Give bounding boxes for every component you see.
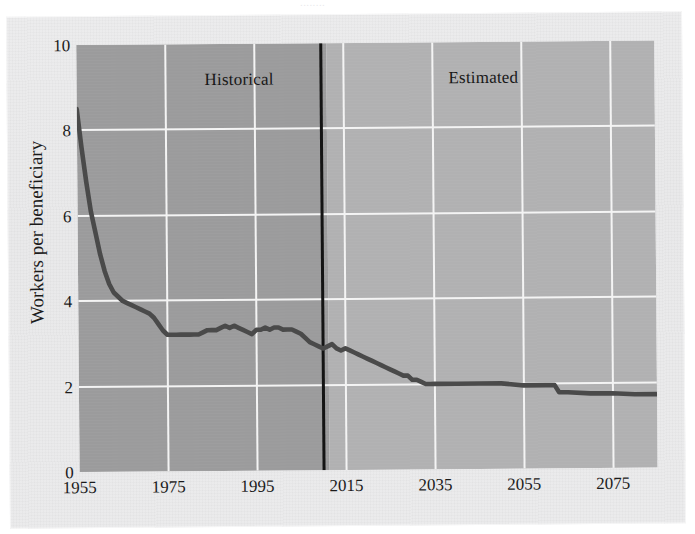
y-tick-label-4: 4 [44,293,72,310]
y-tick-label-2: 2 [45,379,73,396]
series-path-workers-per-beneficiary [77,105,657,399]
y-axis-ticks: 0246810 [40,45,73,472]
x-tick-label-2075: 2075 [596,474,630,494]
x-tick-label-1955: 1955 [63,478,97,498]
y-tick-label-10: 10 [42,37,70,54]
x-tick-label-1975: 1975 [152,477,186,497]
figure-root: ........ Workers per beneficiary 0246810… [0,0,695,534]
scanned-figure-panel: Workers per beneficiary 0246810 Historic… [6,11,686,528]
x-axis-ticks: 1955197519952015203520552075 [80,474,658,505]
clipped-top-caption: ........ [300,0,670,6]
x-tick-label-1995: 1995 [240,477,274,497]
x-tick-label-2055: 2055 [507,474,541,494]
y-tick-label-6: 6 [44,208,72,225]
y-tick-label-8: 8 [43,123,71,140]
x-tick-label-2035: 2035 [418,475,452,495]
x-tick-label-2015: 2015 [329,476,363,496]
series-line-chart [76,41,657,473]
plot-area: Historical Estimated [76,41,657,473]
